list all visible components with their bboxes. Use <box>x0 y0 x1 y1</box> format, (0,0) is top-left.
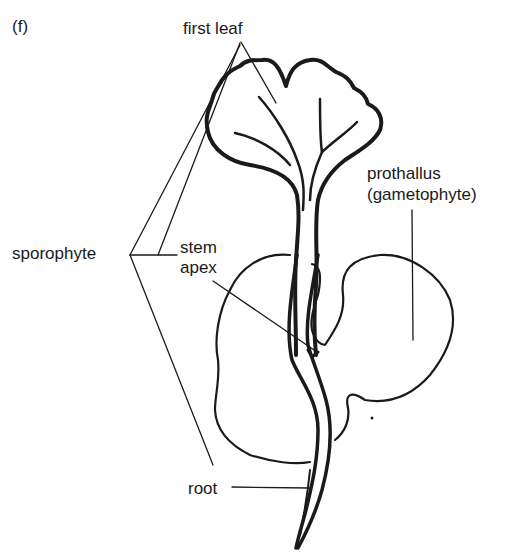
stem-apex-leader <box>213 281 317 352</box>
first-leaf-leader-2 <box>241 42 276 103</box>
root-leader <box>232 487 310 488</box>
speck <box>371 417 374 420</box>
prothallus-right-lobe <box>311 255 453 440</box>
label-apex: apex <box>180 258 217 277</box>
diagram-canvas <box>0 0 528 557</box>
prothallus-leader <box>412 210 413 340</box>
label-sporophyte: sporophyte <box>12 244 96 263</box>
label-first-leaf: first leaf <box>183 19 243 38</box>
first-leaf-leader <box>158 43 240 255</box>
label-root: root <box>188 479 217 498</box>
leaf-vein <box>235 133 290 165</box>
label-prothallus: prothallus <box>367 164 441 183</box>
sporophyte-leader-top <box>130 45 240 255</box>
label-stem: stem <box>180 238 217 257</box>
leaf-vein <box>320 99 322 152</box>
panel-label: (f) <box>12 17 28 36</box>
leaf-vein <box>322 122 357 152</box>
sporophyte-leader-bottom <box>130 255 213 465</box>
first-leaf-outline <box>207 60 382 355</box>
label-gametophyte: (gametophyte) <box>367 185 477 204</box>
